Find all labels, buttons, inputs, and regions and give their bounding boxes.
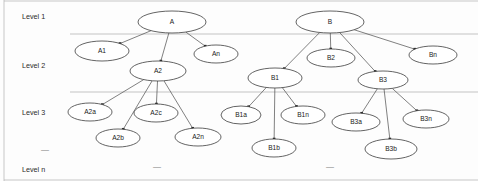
tree-node-an[interactable]: An <box>194 45 238 63</box>
node-label: B1n <box>297 111 309 118</box>
tree-node-a2n[interactable]: A2n <box>175 128 221 146</box>
edge-A2-to-A2c <box>156 81 157 104</box>
node-label: A2c <box>150 109 162 116</box>
ellipsis-left: — <box>41 145 49 154</box>
tree-node-b3b[interactable]: B3b <box>365 139 417 159</box>
edge-B3-to-B3a <box>362 89 378 113</box>
level-label-level-2: Level 2 <box>22 61 45 70</box>
node-label: B3a <box>350 118 362 125</box>
node-label: B <box>328 18 333 25</box>
edge-A-to-A2 <box>161 33 169 61</box>
ellipsis-mid-right: — <box>326 162 334 171</box>
edge-B1-to-B1n <box>282 88 296 107</box>
node-label: A2b <box>112 134 124 141</box>
node-label: B1a <box>235 111 247 118</box>
edge-B1-to-B1a <box>249 87 267 106</box>
tree-node-b3[interactable]: B3 <box>358 71 408 89</box>
node-label: Bn <box>429 51 437 58</box>
edge-B-to-Bn <box>354 30 415 49</box>
node-label: A2 <box>154 67 162 74</box>
node-label: An <box>212 50 220 57</box>
tree-node-group: ABA1A2AnB1B2B3BnA2aA2bA2cA2nB1aB1bB1nB3a… <box>68 11 457 159</box>
node-label: B1b <box>268 144 280 151</box>
tree-node-a[interactable]: A <box>138 11 206 33</box>
tree-node-b1a[interactable]: B1a <box>221 106 261 124</box>
node-label: A1 <box>98 47 106 54</box>
diagram-canvas: ABA1A2AnB1B2B3BnA2aA2bA2cA2nB1aB1bB1nB3a… <box>0 0 478 181</box>
tree-node-b3n[interactable]: B3n <box>403 110 449 128</box>
ellipsis-mid-left: — <box>153 162 161 171</box>
edge-A2-to-A2n <box>164 81 193 128</box>
node-label: B2 <box>327 54 335 61</box>
node-label: B3n <box>420 115 432 122</box>
level-label-level-n: Level n <box>22 165 45 174</box>
tree-node-b3a[interactable]: B3a <box>332 113 380 131</box>
node-label: B3b <box>385 145 397 152</box>
tree-node-bn[interactable]: Bn <box>409 46 457 64</box>
node-label: A2n <box>192 133 204 140</box>
edge-B1-to-B1b <box>274 88 275 139</box>
node-label: A2a <box>84 108 96 115</box>
tree-node-a2c[interactable]: A2c <box>134 104 178 122</box>
tree-node-b[interactable]: B <box>296 11 364 33</box>
tree-node-b1[interactable]: B1 <box>248 68 302 88</box>
edge-A-to-A1 <box>120 31 151 44</box>
tree-node-b2[interactable]: B2 <box>307 49 355 67</box>
tree-node-a1[interactable]: A1 <box>75 41 129 61</box>
node-label: B1 <box>271 74 279 81</box>
node-label: B3 <box>379 76 387 83</box>
node-label: A <box>170 18 175 25</box>
tree-node-a2a[interactable]: A2a <box>68 103 112 121</box>
level-label-level-1: Level 1 <box>22 12 45 21</box>
tree-node-b1n[interactable]: B1n <box>281 106 325 124</box>
tree-diagram: ABA1A2AnB1B2B3BnA2aA2bA2cA2nB1aB1bB1nB3a… <box>0 0 478 181</box>
level-label-level-3: Level 3 <box>22 108 45 117</box>
edge-B3-to-B3b <box>384 89 390 139</box>
tree-node-a2[interactable]: A2 <box>130 61 186 81</box>
tree-node-a2b[interactable]: A2b <box>96 129 140 147</box>
tree-node-b1b[interactable]: B1b <box>252 139 296 157</box>
